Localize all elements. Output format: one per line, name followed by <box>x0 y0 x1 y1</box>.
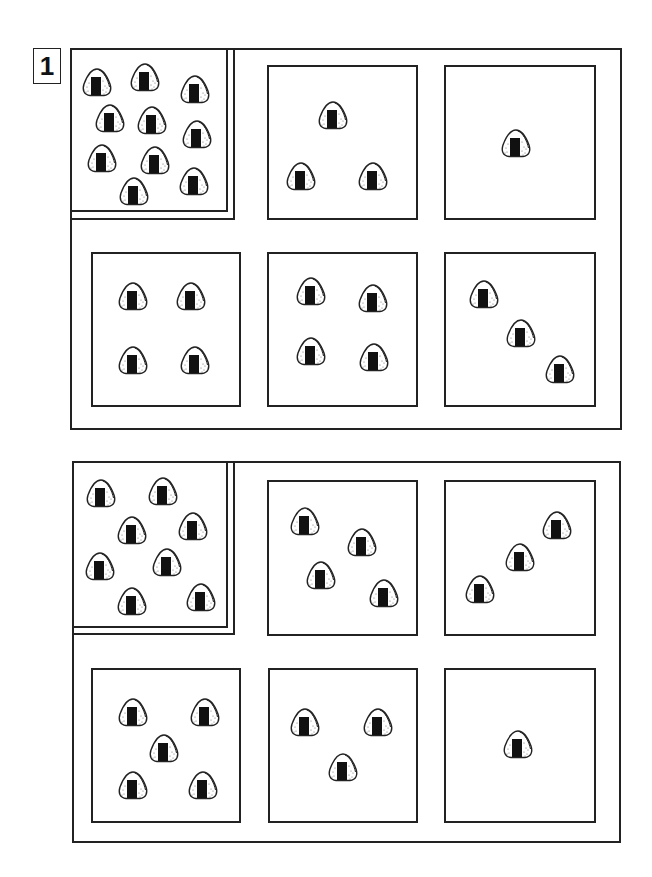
onigiri-icon <box>187 770 219 800</box>
onigiri-icon <box>185 582 217 612</box>
onigiri-icon <box>117 770 149 800</box>
onigiri-icon <box>81 67 113 97</box>
group-2-answer-box-4[interactable] <box>268 668 418 823</box>
onigiri-icon <box>179 345 211 375</box>
onigiri-icon <box>139 145 171 175</box>
onigiri-icon <box>116 515 148 545</box>
onigiri-icon <box>151 547 183 577</box>
onigiri-icon <box>148 733 180 763</box>
onigiri-icon <box>295 276 327 306</box>
onigiri-icon <box>505 318 537 348</box>
onigiri-icon <box>357 283 389 313</box>
onigiri-icon <box>502 729 534 759</box>
onigiri-icon <box>327 752 359 782</box>
onigiri-icon <box>189 697 221 727</box>
onigiri-icon <box>464 574 496 604</box>
onigiri-icon <box>181 119 213 149</box>
onigiri-icon <box>544 354 576 384</box>
onigiri-icon <box>85 478 117 508</box>
group-1-answer-box-4[interactable] <box>267 252 418 407</box>
onigiri-icon <box>178 166 210 196</box>
group-2-answer-box-1[interactable] <box>267 480 418 636</box>
onigiri-icon <box>285 161 317 191</box>
onigiri-icon <box>94 103 126 133</box>
onigiri-icon <box>305 560 337 590</box>
onigiri-icon <box>358 342 390 372</box>
problem-number-label: 1 <box>33 48 61 84</box>
onigiri-icon <box>346 527 378 557</box>
onigiri-icon <box>289 707 321 737</box>
onigiri-icon <box>117 697 149 727</box>
onigiri-icon <box>500 128 532 158</box>
onigiri-icon <box>136 105 168 135</box>
onigiri-icon <box>117 281 149 311</box>
onigiri-icon <box>147 476 179 506</box>
onigiri-icon <box>468 279 500 309</box>
group-1-answer-box-1[interactable] <box>267 65 418 220</box>
onigiri-icon <box>179 74 211 104</box>
onigiri-icon <box>84 551 116 581</box>
onigiri-icon <box>368 578 400 608</box>
onigiri-icon <box>175 281 207 311</box>
onigiri-icon <box>317 100 349 130</box>
onigiri-icon <box>295 336 327 366</box>
onigiri-icon <box>504 542 536 572</box>
onigiri-icon <box>118 176 150 206</box>
onigiri-icon <box>86 143 118 173</box>
group-1-answer-box-3[interactable] <box>91 252 241 407</box>
onigiri-icon <box>177 511 209 541</box>
onigiri-icon <box>129 62 161 92</box>
onigiri-icon <box>362 707 394 737</box>
onigiri-icon <box>541 510 573 540</box>
problem-number: 1 <box>40 53 54 79</box>
onigiri-icon <box>289 506 321 536</box>
onigiri-icon <box>117 345 149 375</box>
onigiri-icon <box>116 586 148 616</box>
onigiri-icon <box>357 161 389 191</box>
